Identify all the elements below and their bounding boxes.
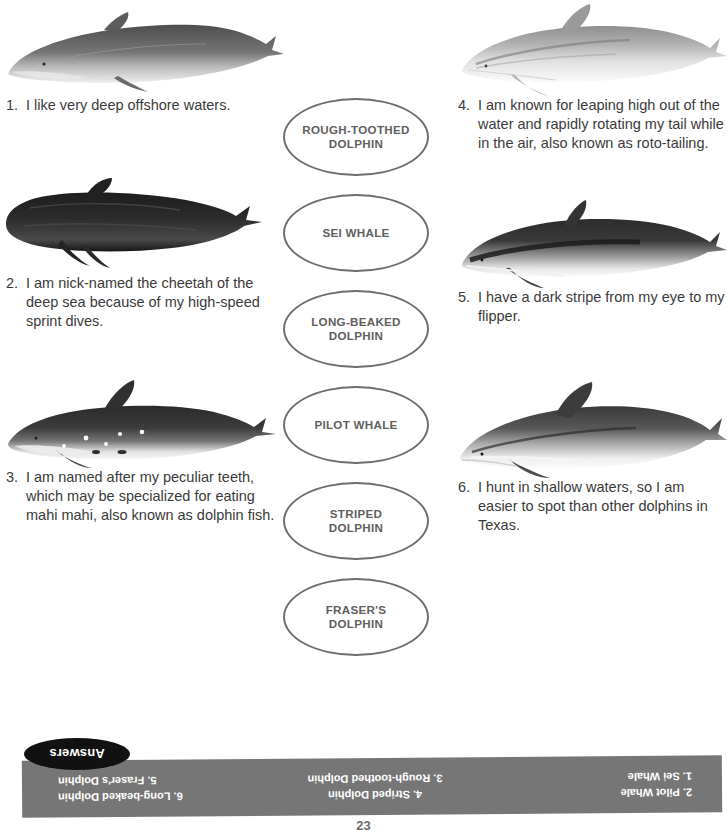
answer-line: 3. Rough-toothed Dolphin: [269, 771, 480, 786]
oval-line1: ROUGH-TOOTHED: [302, 123, 409, 136]
frasers-dolphin-illustration: [452, 192, 727, 288]
oval-line2: DOLPHIN: [329, 329, 383, 342]
clue-entry-6: 6. I hunt in shallow waters, so I am eas…: [452, 382, 727, 535]
answer-line: 2. Pilot Whale: [481, 785, 692, 800]
oval-line1: PILOT WHALE: [314, 418, 397, 431]
clue-text-1: I like very deep offshore waters.: [26, 96, 285, 115]
clue-text-4: I am known for leaping high out of the w…: [478, 96, 727, 153]
name-oval-column: ROUGH-TOOTHED DOLPHIN SEI WHALE LONG-BEA…: [283, 98, 445, 674]
pilot-whale-illustration: [0, 178, 285, 274]
answer-line: 6. Long-beaked Dolphin: [58, 788, 269, 803]
answers-tab-label: Answers: [49, 747, 105, 762]
name-oval-striped-dolphin[interactable]: STRIPED DOLPHIN: [283, 482, 429, 560]
answers-tab: Answers: [24, 738, 130, 770]
oval-line1: LONG-BEAKED: [311, 315, 401, 328]
name-oval-rough-toothed-dolphin[interactable]: ROUGH-TOOTHED DOLPHIN: [283, 98, 429, 176]
clue-entry-3: 3. I am named after my peculiar teeth, w…: [0, 372, 285, 525]
answers-column-3: 6. Long-beaked Dolphin 5. Fraser's Dolph…: [48, 773, 270, 804]
clue-5: 5. I have a dark stripe from my eye to m…: [452, 288, 727, 326]
oval-line2: DOLPHIN: [329, 521, 383, 534]
oval-line2: DOLPHIN: [329, 137, 383, 150]
oval-line1: SEI WHALE: [322, 226, 389, 239]
clue-1: 1. I like very deep offshore waters.: [0, 96, 285, 115]
clue-entry-1: 1. I like very deep offshore waters.: [0, 0, 285, 115]
clue-text-5: I have a dark stripe from my eye to my f…: [478, 288, 727, 326]
name-oval-frasers-dolphin[interactable]: FRASER'S DOLPHIN: [283, 578, 429, 656]
clue-number-5: 5.: [452, 288, 478, 307]
clue-6: 6. I hunt in shallow waters, so I am eas…: [452, 478, 727, 535]
clue-entry-2: 2. I am nick-named the cheetah of the de…: [0, 178, 285, 331]
oval-line1: STRIPED: [330, 507, 382, 520]
clue-number-2: 2.: [0, 274, 26, 293]
clue-2: 2. I am nick-named the cheetah of the de…: [0, 274, 285, 331]
clue-4: 4. I am known for leaping high out of th…: [452, 96, 727, 153]
answers-bar: 2. Pilot Whale 1. Sei Whale 4. Striped D…: [22, 755, 722, 817]
page-number: 23: [0, 818, 727, 830]
long-beaked-dolphin-illustration: [452, 382, 727, 478]
clue-number-3: 3.: [0, 468, 26, 487]
oval-line1: FRASER'S: [326, 603, 387, 616]
clue-number-1: 1.: [0, 96, 26, 115]
clue-text-2: I am nick-named the cheetah of the deep …: [26, 274, 285, 331]
answers-column-1: 2. Pilot Whale 1. Sei Whale: [481, 769, 697, 800]
clue-3: 3. I am named after my peculiar teeth, w…: [0, 468, 285, 525]
name-oval-long-beaked-dolphin[interactable]: LONG-BEAKED DOLPHIN: [283, 290, 429, 368]
clue-number-4: 4.: [452, 96, 478, 115]
striped-dolphin-illustration: [452, 0, 727, 96]
worksheet-page: 1. I like very deep offshore waters.: [0, 0, 727, 830]
clue-number-6: 6.: [452, 478, 478, 497]
oval-line2: DOLPHIN: [329, 617, 383, 630]
sei-whale-illustration: [0, 0, 285, 96]
answer-line: 1. Sei Whale: [481, 769, 692, 784]
rough-toothed-dolphin-illustration: [0, 372, 285, 468]
answer-line: 5. Fraser's Dolphin: [58, 773, 269, 788]
answer-line: 4. Striped Dolphin: [269, 787, 480, 802]
answers-column-2: 4. Striped Dolphin 3. Rough-toothed Dolp…: [269, 771, 481, 802]
clue-entry-5: 5. I have a dark stripe from my eye to m…: [452, 192, 727, 326]
name-oval-sei-whale[interactable]: SEI WHALE: [283, 194, 429, 272]
clue-text-3: I am named after my peculiar teeth, whic…: [26, 468, 285, 525]
clue-text-6: I hunt in shallow waters, so I am easier…: [478, 478, 727, 535]
clue-entry-4: 4. I am known for leaping high out of th…: [452, 0, 727, 153]
name-oval-pilot-whale[interactable]: PILOT WHALE: [283, 386, 429, 464]
